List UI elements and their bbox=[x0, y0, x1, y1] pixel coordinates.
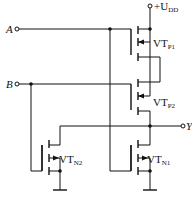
svg-text:VTP1: VTP1 bbox=[153, 37, 176, 51]
cmos-schematic: +UDD A B VTP1 bbox=[0, 0, 192, 199]
svg-text:VTP2: VTP2 bbox=[153, 96, 176, 110]
svg-text:VTN2: VTN2 bbox=[59, 153, 83, 167]
input-a: A bbox=[5, 23, 131, 171]
vdd-label: +UDD bbox=[154, 0, 178, 14]
transistor-vt-n1: VTN1 bbox=[138, 126, 171, 190]
svg-text:Y: Y bbox=[186, 120, 192, 132]
svg-text:A: A bbox=[5, 23, 13, 35]
transistor-vt-n2: VTN2 bbox=[49, 126, 83, 190]
vdd-terminal: +UDD bbox=[148, 0, 178, 29]
transistor-vt-p1: VTP1 bbox=[138, 26, 176, 82]
svg-text:B: B bbox=[6, 78, 13, 90]
svg-text:VTN1: VTN1 bbox=[147, 153, 171, 167]
output-y: Y bbox=[60, 120, 192, 132]
transistor-vt-p2: VTP2 bbox=[138, 42, 176, 126]
